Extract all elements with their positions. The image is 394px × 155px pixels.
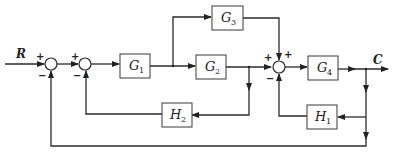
summing-junction-1: + − xyxy=(36,51,57,81)
block-letter: G xyxy=(129,58,139,73)
sign-plus: + xyxy=(71,51,79,62)
block-subscript: 3 xyxy=(231,18,236,27)
sum-circle xyxy=(79,58,91,70)
sign-plus: + xyxy=(36,51,44,62)
branch-to-h2-line xyxy=(192,88,249,115)
block-letter: G xyxy=(205,59,215,74)
block-subscript: 4 xyxy=(327,68,332,77)
block-subscript: 2 xyxy=(215,67,220,76)
sign-plus-top: + xyxy=(284,49,292,60)
block-subscript: 1 xyxy=(139,66,144,75)
block-g3: G 3 xyxy=(212,6,243,30)
sign-plus-left: + xyxy=(264,52,272,63)
block-letter: G xyxy=(317,60,327,75)
g3-to-s3-line xyxy=(243,18,279,60)
block-subscript: 1 xyxy=(326,117,331,126)
summing-junction-2: + − xyxy=(71,51,91,81)
sign-minus: − xyxy=(266,73,274,84)
block-subscript: 2 xyxy=(181,115,186,124)
block-g4: G 4 xyxy=(308,56,338,80)
sign-minus: − xyxy=(73,70,81,81)
sign-minus: − xyxy=(38,70,46,81)
block-h1: H 1 xyxy=(307,105,337,129)
sum-circle xyxy=(273,61,285,73)
block-g2: G 2 xyxy=(196,55,226,79)
block-g1: G 1 xyxy=(120,54,150,78)
h1-to-s3-line xyxy=(279,74,307,116)
block-diagram: R + − + − G 1 G 3 G 2 H xyxy=(0,0,394,155)
block-letter: G xyxy=(221,10,231,25)
input-label-r: R xyxy=(15,47,26,61)
output-label-c: C xyxy=(373,53,383,67)
block-h2: H 2 xyxy=(162,103,192,127)
sum-circle xyxy=(45,58,57,70)
